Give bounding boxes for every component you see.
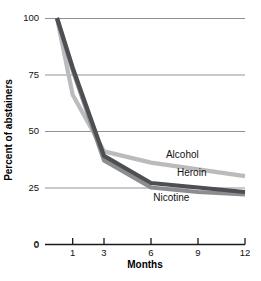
x-tick-label-3: 3	[101, 247, 106, 258]
abstainers-line-chart: 0255075100 0136912 AlcoholHeroinNicotine…	[0, 0, 261, 281]
x-tick-label-9: 9	[195, 247, 200, 258]
x-tick-label-12: 12	[240, 247, 251, 258]
y-tick-label-75: 75	[28, 69, 39, 80]
chart-container: 0255075100 0136912 AlcoholHeroinNicotine…	[0, 0, 261, 281]
x-tick-label-0: 0	[34, 239, 39, 250]
series-label-alcohol: Alcohol	[166, 149, 199, 160]
series-label-nicotine: Nicotine	[153, 192, 190, 203]
series-label-heroin: Heroin	[177, 167, 206, 178]
x-tick-label-6: 6	[148, 247, 153, 258]
y-axis-title: Percent of abstainers	[3, 79, 14, 181]
y-tick-label-25: 25	[28, 182, 39, 193]
x-axis-title: Months	[127, 259, 163, 270]
y-tick-label-100: 100	[23, 12, 39, 23]
chart-background	[0, 0, 261, 281]
x-tick-label-1: 1	[70, 247, 75, 258]
y-tick-label-50: 50	[28, 125, 39, 136]
